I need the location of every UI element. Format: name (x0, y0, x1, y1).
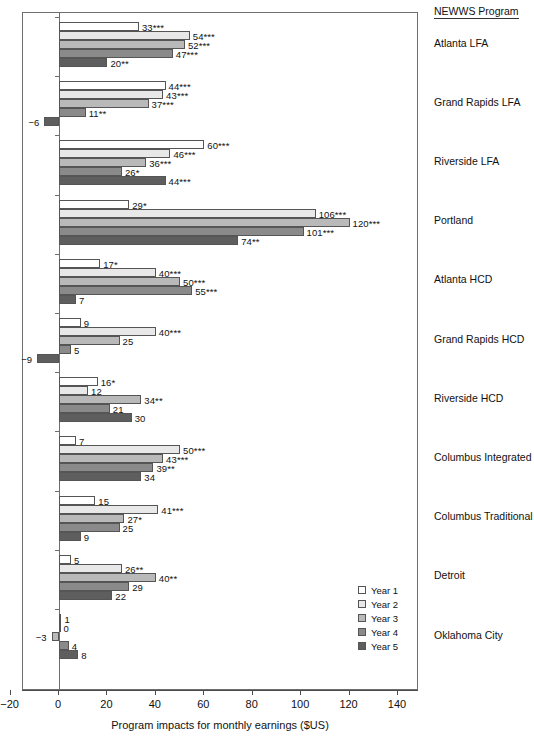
bar-value-label: 40** (159, 574, 177, 583)
chart-legend: Year 1Year 2Year 3Year 4Year 5 (358, 583, 414, 653)
bar (59, 413, 132, 422)
bar-value-label: 11** (89, 109, 107, 118)
bar-value-label: 46*** (173, 150, 195, 159)
program-column-header: NEWWS Program (434, 5, 519, 19)
program-name-column: NEWWS Program Atlanta LFAGrand Rapids LF… (426, 0, 534, 690)
bar (59, 505, 158, 514)
group-tick (55, 491, 60, 492)
bar-value-label: 47*** (176, 50, 198, 59)
bar (59, 277, 180, 286)
bar (59, 641, 69, 650)
bar-value-label: −9 (21, 355, 32, 364)
bar (59, 209, 316, 218)
bar-value-label: 20** (110, 59, 128, 68)
bar (59, 514, 124, 523)
bar (59, 286, 192, 295)
x-tick (155, 690, 156, 695)
bar-value-label: 7 (79, 296, 84, 305)
x-tick-label: 0 (55, 698, 61, 710)
legend-label: Year 1 (371, 585, 398, 596)
bar (59, 555, 71, 564)
chart-figure: 33***54***52***47***20**44***43***37***1… (0, 0, 534, 746)
bar (59, 395, 141, 404)
program-label: Grand Rapids LFA (434, 96, 520, 108)
legend-item[interactable]: Year 4 (358, 625, 414, 639)
legend-item[interactable]: Year 2 (358, 597, 414, 611)
bar (59, 327, 156, 336)
legend-item[interactable]: Year 5 (358, 639, 414, 653)
bar (59, 236, 238, 245)
bar (59, 345, 71, 354)
legend-label: Year 3 (371, 613, 398, 624)
bar-value-label: 9 (84, 533, 89, 542)
bar-value-label: 55*** (195, 287, 217, 296)
bar (44, 117, 59, 126)
bar (59, 336, 120, 345)
bar (59, 496, 95, 505)
bar-value-label: 74** (241, 237, 259, 246)
x-tick-label: 120 (339, 698, 357, 710)
group-tick (55, 17, 60, 18)
bar (59, 614, 61, 623)
x-axis-line (22, 690, 418, 691)
bar-value-label: 34** (144, 396, 162, 405)
bar (52, 632, 59, 641)
bar (59, 623, 61, 632)
legend-item[interactable]: Year 3 (358, 611, 414, 625)
bar (59, 227, 304, 236)
bar (59, 650, 78, 659)
bar (37, 354, 59, 363)
bar (59, 318, 81, 327)
bar (59, 200, 129, 209)
program-label: Columbus Traditional (434, 510, 533, 522)
program-label: Riverside LFA (434, 155, 499, 167)
group-tick (55, 254, 60, 255)
program-label: Portland (434, 214, 473, 226)
bar (59, 295, 76, 304)
x-tick-label: −20 (0, 698, 19, 710)
bar (59, 268, 156, 277)
bar (59, 140, 204, 149)
bar-value-label: 0 (64, 624, 69, 633)
x-tick (349, 690, 350, 695)
bar-value-label: 5 (74, 346, 79, 355)
bar (59, 386, 88, 395)
legend-swatch-icon (358, 642, 366, 650)
bar (59, 22, 139, 31)
x-tick (10, 690, 11, 695)
bar (59, 149, 170, 158)
bar (59, 472, 141, 481)
legend-item[interactable]: Year 1 (358, 583, 414, 597)
bar (59, 218, 350, 227)
group-tick (55, 431, 60, 432)
bar-value-label: 39** (156, 464, 174, 473)
bar-value-label: −3 (36, 633, 47, 642)
legend-swatch-icon (358, 628, 366, 636)
legend-label: Year 4 (371, 627, 398, 638)
bar (59, 31, 190, 40)
program-label: Atlanta HCD (434, 273, 492, 285)
bar (59, 58, 107, 67)
bar (59, 582, 129, 591)
bar-value-label: 36*** (149, 159, 171, 168)
bar (59, 591, 112, 600)
bar (59, 108, 86, 117)
bar (59, 167, 122, 176)
group-tick (55, 313, 60, 314)
program-label: Riverside HCD (434, 392, 503, 404)
x-tick (300, 690, 301, 695)
bar-value-label: 60*** (207, 141, 229, 150)
bar (59, 99, 149, 108)
group-tick (55, 372, 60, 373)
x-tick-label: 20 (100, 698, 112, 710)
bar-value-label: 41*** (161, 506, 183, 515)
x-tick (252, 690, 253, 695)
x-tick (203, 690, 204, 695)
bar (59, 81, 166, 90)
bar (59, 158, 146, 167)
bar (59, 40, 185, 49)
bar (59, 573, 156, 582)
bar-value-label: 8 (81, 651, 86, 660)
group-tick (55, 550, 60, 551)
bar (59, 523, 120, 532)
